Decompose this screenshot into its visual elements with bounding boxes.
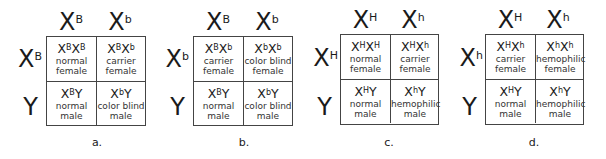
cell: XHYnormalmale [341,79,390,123]
caption: a. [82,136,112,149]
side-allele-1: XH [298,46,338,70]
cell: XbXbcolor blindfemale [243,37,292,81]
cell: XhYhemophilicmale [535,79,584,123]
punnett-square-d: XH Xh Xh Y XHXhcarrierfemale XhXhhemophi… [439,0,589,159]
cell: XHXHnormalfemale [341,35,390,79]
caption: c. [374,136,404,149]
side-allele-1: Xb [149,47,189,71]
punnett-grid: XHXhcarrierfemale XhXhhemophilicfemale X… [485,34,584,125]
cell: XHXhcarrierfemale [486,35,535,79]
cell: XBXbcarrierfemale [96,37,145,81]
top-allele-2: Xb [242,10,292,34]
cell: XHXhcarrierfemale [390,35,439,79]
top-allele-2: Xb [95,10,145,34]
side-allele-2: Y [0,95,38,119]
cell: XbYcolor blindmale [96,81,145,125]
cell: XbYcolor blindmale [243,81,292,125]
punnett-square-c: XH Xh XH Y XHXHnormalfemale XHXhcarrierf… [294,0,444,159]
top-allele-1: XH [485,8,535,32]
cell: XhXhhemophilicfemale [535,35,584,79]
punnett-grid: XHXHnormalfemale XHXhcarrierfemale XHYno… [340,34,439,125]
cell: XhYhemophilicmale [390,79,439,123]
cell: XBXbcarrierfemale [194,37,243,81]
top-allele-1: XH [340,8,390,32]
cell: XBYnormalmale [194,81,243,125]
top-allele-2: Xh [388,8,438,32]
punnett-grid: XBXBnormalfemale XBXbcarrierfemale XBYno… [46,36,146,126]
side-allele-2: Y [145,95,185,119]
cell: XBXBnormalfemale [47,37,96,81]
top-allele-2: Xh [533,8,583,32]
top-allele-1: XB [193,10,243,34]
punnett-square-b: XB Xb Xb Y XBXbcarrierfemale XbXbcolor b… [147,0,297,159]
caption: b. [229,136,259,149]
cell: XHYnormalmale [486,79,535,123]
side-allele-1: XB [2,47,42,71]
side-allele-1: Xh [443,46,483,70]
punnett-grid: XBXbcarrierfemale XbXbcolor blindfemale … [193,36,293,126]
top-allele-1: XB [46,10,96,34]
punnett-square-a: XB Xb XB Y XBXBnormalfemale XBXbcarrierf… [0,0,150,159]
side-allele-2: Y [292,95,332,119]
side-allele-2: Y [437,95,477,119]
cell: XBYnormalmale [47,81,96,125]
caption: d. [519,136,549,149]
